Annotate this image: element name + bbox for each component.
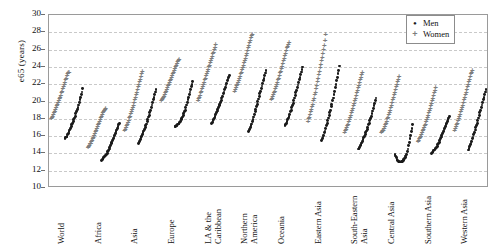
- y-axis-tick-labels: 1012141618202224262830: [12, 14, 41, 187]
- y-tick-label: 10: [19, 182, 41, 191]
- y-tick-mark: [41, 66, 45, 67]
- y-tick-label: 12: [19, 165, 41, 174]
- legend-item-women: + Women: [411, 29, 449, 40]
- y-tick-label: 24: [19, 61, 41, 70]
- gridline: [49, 84, 487, 85]
- gridline: [49, 119, 487, 120]
- legend-label-men: Men: [423, 18, 439, 29]
- x-category-text: Eastern Asia: [314, 188, 324, 244]
- x-category-text: Southern Asia: [424, 188, 434, 244]
- y-tick-mark: [41, 135, 45, 136]
- y-tick-label: 14: [19, 147, 41, 156]
- y-tick-mark: [41, 170, 45, 171]
- y-tick-label: 16: [19, 130, 41, 139]
- x-category-text: Central Asia: [387, 188, 397, 244]
- y-tick-mark: [41, 187, 45, 188]
- y-tick-mark: [41, 49, 45, 50]
- gridline: [49, 171, 487, 172]
- y-tick-label: 22: [19, 78, 41, 87]
- x-category-text: South-Eastern Asia: [350, 188, 369, 244]
- x-category-text: Africa: [94, 188, 104, 244]
- x-category-text: Europe: [167, 188, 177, 244]
- y-tick-mark: [41, 152, 45, 153]
- gridline: [49, 102, 487, 103]
- y-tick-label: 18: [19, 113, 41, 122]
- y-tick-label: 30: [19, 9, 41, 18]
- y-tick-mark: [41, 118, 45, 119]
- y-tick-label: 28: [19, 26, 41, 35]
- y-tick-mark: [41, 31, 45, 32]
- x-category-text: Western Asia: [460, 188, 470, 244]
- x-category-text: Oceania: [277, 188, 287, 244]
- x-category-text: Northern America: [240, 188, 259, 244]
- legend-label-women: Women: [423, 29, 449, 40]
- x-category-text: Asia: [130, 188, 140, 244]
- y-tick-mark: [41, 83, 45, 84]
- legend: • Men + Women: [406, 15, 455, 44]
- legend-item-men: • Men: [411, 18, 449, 29]
- x-category-text: LA & the Caribbean: [204, 188, 223, 244]
- y-tick-label: 26: [19, 44, 41, 53]
- y-tick-mark: [41, 101, 45, 102]
- x-category-label: Western Asia: [451, 190, 495, 246]
- x-axis-category-labels: WorldAfricaAsiaEuropeLA & the CaribbeanN…: [48, 190, 488, 248]
- gridline: [49, 67, 487, 68]
- men-marker-icon: •: [411, 19, 419, 28]
- gridline: [49, 153, 487, 154]
- chart-figure: e65 (years) 1012141618202224262830 • Men…: [0, 0, 495, 248]
- y-tick-label: 20: [19, 96, 41, 105]
- women-marker-icon: +: [411, 29, 419, 40]
- y-tick-mark: [41, 14, 45, 15]
- x-category-text: World: [57, 188, 67, 244]
- y-axis-tick-marks: [41, 14, 48, 187]
- gridline: [49, 50, 487, 51]
